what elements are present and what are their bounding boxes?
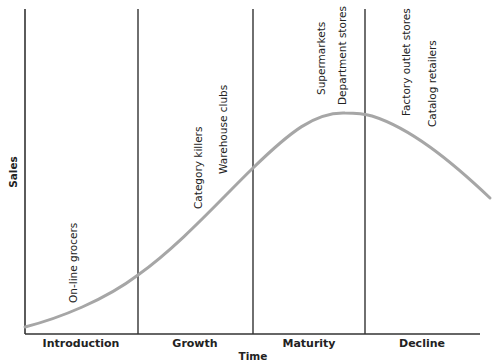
stage-label-introduction: Introduction [43, 337, 120, 350]
x-axis-title: Time [239, 350, 268, 362]
retail-life-cycle-diagram: Sales Introduction Growth Maturity Decli… [0, 0, 494, 364]
annotation-category-killers: Category killers [192, 127, 204, 209]
stage-label-maturity: Maturity [282, 337, 335, 350]
annotation-warehouse-clubs: Warehouse clubs [217, 85, 229, 174]
annotation-online-grocers: On-line grocers [67, 223, 79, 303]
sales-curve [25, 113, 490, 327]
annotation-catalog-retailers: Catalog retailers [426, 40, 438, 127]
y-axis-title: Sales [7, 156, 19, 188]
stage-label-decline: Decline [399, 337, 445, 350]
annotation-factory-outlet-stores: Factory outlet stores [400, 8, 412, 116]
stage-label-growth: Growth [172, 337, 217, 350]
annotation-department-stores: Department stores [336, 6, 348, 105]
annotation-supermarkets: Supermarkets [315, 22, 327, 95]
